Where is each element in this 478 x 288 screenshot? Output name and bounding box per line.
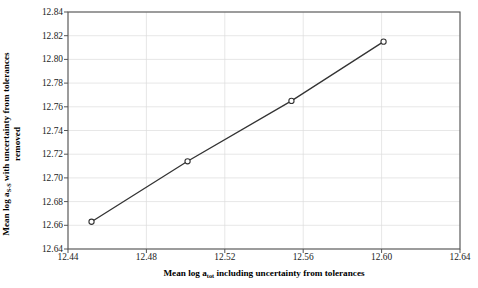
gridlines (68, 12, 460, 249)
plot-area (0, 0, 478, 288)
data-series-line (92, 42, 384, 222)
tick-marks (64, 12, 460, 253)
chart-figure: Mean log aS-S with uncertainty from tole… (0, 0, 478, 288)
